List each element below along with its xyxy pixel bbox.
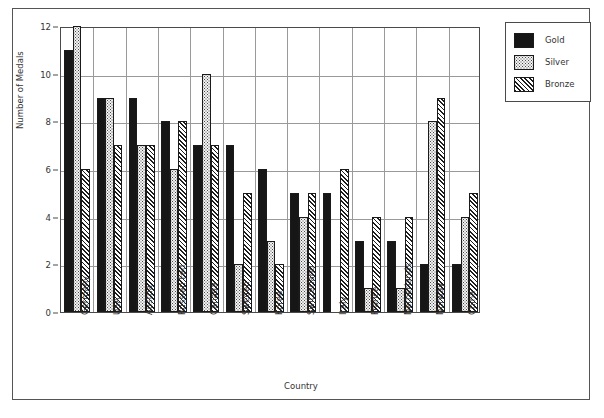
bar-silver <box>105 98 114 313</box>
x-tick-label: Switzerland <box>306 265 316 315</box>
vertical-gridline <box>384 28 385 312</box>
y-tick-mark <box>53 74 58 75</box>
bar-bronze <box>437 98 446 313</box>
bar-gold <box>226 145 235 312</box>
legend-item: Bronze <box>514 73 590 95</box>
diagonal-hatch-swatch <box>514 77 534 92</box>
bar-group <box>258 28 284 312</box>
legend-item: Silver <box>514 51 590 73</box>
legend-label: Gold <box>545 35 565 45</box>
bar-gold <box>161 121 170 312</box>
y-tick-mark <box>53 27 58 28</box>
bar-group <box>355 28 381 312</box>
y-tick-mark <box>53 122 58 123</box>
bar-gold <box>193 145 202 312</box>
vertical-gridline <box>158 28 159 312</box>
bar-gold <box>97 98 106 313</box>
y-tick-label: 4 <box>46 213 51 223</box>
vertical-gridline <box>255 28 256 312</box>
bar-gold <box>420 264 429 312</box>
x-tick-label: Russian Fed. <box>177 262 187 315</box>
x-tick-label: Austria <box>144 285 154 315</box>
bar-gold <box>64 50 73 312</box>
y-tick-label: 0 <box>46 308 51 318</box>
vertical-gridline <box>126 28 127 312</box>
x-tick-label: Canada <box>209 283 219 315</box>
x-tick-label: China <box>467 291 477 315</box>
plot-area <box>60 27 480 313</box>
bar-group <box>129 28 155 312</box>
figure-frame: Number of Medals 024681012 GermanyUSAAus… <box>12 8 590 400</box>
vertical-gridline <box>287 28 288 312</box>
bar-group <box>64 28 90 312</box>
x-tick-label: Italy <box>338 297 348 315</box>
solid-black-swatch <box>514 33 534 48</box>
bar-group <box>420 28 446 312</box>
bar-gold <box>355 241 364 313</box>
x-tick-label: France <box>370 287 380 315</box>
bar-silver <box>73 26 82 312</box>
legend-label: Silver <box>545 57 569 67</box>
x-tick-label: Netherlands <box>403 263 413 315</box>
bar-gold <box>452 264 461 312</box>
bar-group <box>452 28 478 312</box>
bar-gold <box>323 193 332 312</box>
dotted-light-swatch <box>514 55 534 70</box>
legend-label: Bronze <box>545 79 574 89</box>
bar-group <box>226 28 252 312</box>
legend: GoldSilverBronze <box>505 22 591 102</box>
x-tick-label: USA <box>112 297 122 315</box>
y-tick-mark <box>53 170 58 171</box>
y-tick-label: 6 <box>46 165 51 175</box>
y-tick-label: 8 <box>46 117 51 127</box>
y-tick-mark <box>53 265 58 266</box>
bar-gold <box>387 241 396 313</box>
vertical-gridline <box>223 28 224 312</box>
y-tick-label: 10 <box>40 70 51 80</box>
y-tick-label: 12 <box>40 22 51 32</box>
bar-group <box>193 28 219 312</box>
bar-group <box>323 28 349 312</box>
x-axis-labels: GermanyUSAAustriaRussian Fed.CanadaSwede… <box>60 315 480 377</box>
vertical-gridline <box>319 28 320 312</box>
y-tick-mark <box>53 313 58 314</box>
bar-gold <box>129 98 138 313</box>
vertical-gridline <box>93 28 94 312</box>
legend-item: Gold <box>514 29 590 51</box>
x-tick-label: Korea <box>274 291 284 315</box>
x-axis-title: Country <box>13 381 589 391</box>
y-tick-label: 2 <box>46 260 51 270</box>
bar-group <box>97 28 123 312</box>
vertical-gridline <box>416 28 417 312</box>
vertical-gridline <box>449 28 450 312</box>
y-axis-ticks: 024681012 <box>13 27 58 313</box>
y-tick-mark <box>53 217 58 218</box>
bar-bronze <box>114 145 123 312</box>
bar-bronze <box>340 169 349 312</box>
bar-silver <box>202 74 211 312</box>
bar-gold <box>290 193 299 312</box>
vertical-gridline <box>190 28 191 312</box>
bar-gold <box>258 169 267 312</box>
vertical-gridline <box>352 28 353 312</box>
x-tick-label: Germany <box>80 276 90 315</box>
x-tick-label: Norway <box>435 283 445 315</box>
x-tick-label: Sweden <box>241 281 251 315</box>
